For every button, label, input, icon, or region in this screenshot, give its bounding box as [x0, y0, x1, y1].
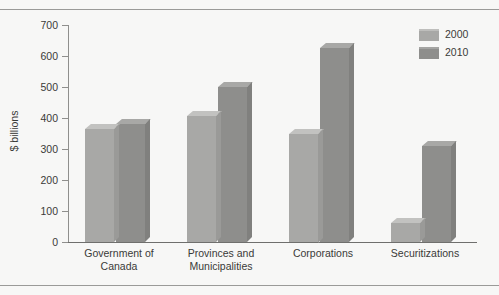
bar-group	[289, 25, 349, 242]
bar	[391, 223, 420, 242]
bar	[85, 129, 114, 242]
bar-side-face	[114, 124, 119, 242]
x-axis-baseline	[68, 242, 477, 243]
legend-label: 2000	[445, 29, 468, 40]
frame-top-border	[0, 9, 499, 10]
bar-side-face	[216, 111, 221, 242]
bar-face	[116, 124, 145, 242]
x-axis-label-line: Canada	[68, 260, 170, 273]
bar-face	[320, 48, 349, 242]
y-tick-label: 100	[40, 206, 58, 216]
x-axis-label-line: Provinces and	[170, 247, 272, 260]
bar-face	[187, 116, 216, 242]
x-axis-label-line: Corporations	[272, 247, 374, 260]
y-tick-label: 0	[52, 237, 58, 247]
y-tick-label: 700	[40, 20, 58, 30]
x-axis-label: Corporations	[272, 247, 374, 260]
bar-face	[289, 134, 318, 243]
bar-side-face	[318, 129, 323, 243]
bar	[289, 134, 318, 243]
bar-side-face	[451, 141, 456, 242]
bar	[422, 146, 451, 242]
legend-item: 2000	[419, 29, 491, 40]
legend-item: 2010	[419, 47, 491, 58]
y-tick-label: 600	[40, 51, 58, 61]
x-axis-label-line: Government of	[68, 247, 170, 260]
x-axis-label: Provinces andMunicipalities	[170, 247, 272, 272]
x-axis-category-labels: Government ofCanadaProvinces andMunicipa…	[68, 247, 477, 287]
bar-face	[391, 223, 420, 242]
y-tick-label: 200	[40, 175, 58, 185]
y-tick-label: 500	[40, 82, 58, 92]
y-tick-label: 300	[40, 144, 58, 154]
bar-side-face	[145, 119, 150, 242]
chart-figure: 0100200300400500600700 $ billions Govern…	[0, 0, 499, 295]
bar-side-face	[349, 43, 354, 242]
legend-swatch	[419, 29, 439, 41]
legend-swatch	[419, 47, 439, 59]
bar-group	[85, 25, 145, 242]
y-tick-mark	[62, 242, 68, 243]
chart-legend: 20002010	[419, 29, 491, 65]
bar-face	[85, 129, 114, 242]
bar	[187, 116, 216, 242]
y-axis-title: $ billions	[8, 91, 20, 171]
plot-area	[68, 25, 476, 242]
bar-face	[422, 146, 451, 242]
x-axis-label-line: Securitizations	[374, 247, 476, 260]
bar-group	[187, 25, 247, 242]
x-axis-label: Securitizations	[374, 247, 476, 260]
bar	[116, 124, 145, 242]
bar	[320, 48, 349, 242]
y-tick-label: 400	[40, 113, 58, 123]
x-axis-label: Government ofCanada	[68, 247, 170, 272]
bar-side-face	[247, 82, 252, 242]
legend-label: 2010	[445, 47, 468, 58]
x-axis-label-line: Municipalities	[170, 260, 272, 273]
